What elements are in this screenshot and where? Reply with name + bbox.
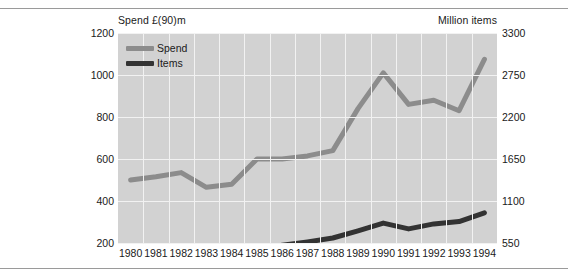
gridline-vertical xyxy=(446,33,447,243)
legend-label: Spend xyxy=(157,43,187,54)
series-line-items xyxy=(131,213,485,243)
x-axis-tick-label: 1993 xyxy=(447,247,470,259)
gridline-vertical xyxy=(320,33,321,243)
left-axis-tick-label: 1000 xyxy=(91,69,114,81)
gridline-horizontal xyxy=(118,201,497,202)
right-axis-tick-label: 3300 xyxy=(502,27,525,39)
right-axis-tick-label: 1100 xyxy=(502,195,525,207)
gridline-vertical xyxy=(472,33,473,243)
x-axis-ticks: 1980198119821983198419851986198719881989… xyxy=(118,247,497,265)
left-axis-tick-label: 200 xyxy=(96,237,114,249)
x-axis-tick-label: 1991 xyxy=(397,247,420,259)
left-axis-tick-label: 800 xyxy=(96,111,114,123)
line-chart-figure: Spend £(90)m Million items 2004006008001… xyxy=(0,0,568,277)
x-axis-tick-label: 1981 xyxy=(144,247,167,259)
right-axis-title: Million items xyxy=(438,14,497,26)
x-axis-tick-label: 1986 xyxy=(271,247,294,259)
right-axis-ticks: 55011001650220027503300 xyxy=(502,33,562,243)
gridline-horizontal xyxy=(118,159,497,160)
legend-item[interactable]: Items xyxy=(126,57,187,70)
gridline-vertical xyxy=(270,33,271,243)
gridline-vertical xyxy=(345,33,346,243)
left-axis-tick-label: 600 xyxy=(96,153,114,165)
x-axis-tick-label: 1982 xyxy=(169,247,192,259)
gridline-horizontal xyxy=(118,117,497,118)
gridline-vertical xyxy=(219,33,220,243)
legend-swatch-icon xyxy=(126,46,154,51)
series-line-spend xyxy=(131,59,485,187)
x-axis-tick-label: 1985 xyxy=(245,247,268,259)
right-axis-tick-label: 1650 xyxy=(502,153,525,165)
gridline-vertical xyxy=(396,33,397,243)
right-axis-tick-label: 550 xyxy=(502,237,520,249)
x-axis-tick-label: 1989 xyxy=(346,247,369,259)
x-axis-tick-label: 1987 xyxy=(296,247,319,259)
left-axis-tick-label: 1200 xyxy=(91,27,114,39)
left-axis-ticks: 20040060080010001200 xyxy=(70,33,114,243)
gridline-vertical xyxy=(371,33,372,243)
right-axis-tick-label: 2750 xyxy=(502,69,525,81)
gridline-horizontal xyxy=(118,243,497,244)
x-axis-tick-label: 1983 xyxy=(195,247,218,259)
gridline-horizontal xyxy=(118,33,497,34)
left-axis-tick-label: 400 xyxy=(96,195,114,207)
gridline-horizontal xyxy=(118,75,497,76)
legend-item[interactable]: Spend xyxy=(126,42,187,55)
x-axis-tick-label: 1980 xyxy=(119,247,142,259)
gridline-vertical xyxy=(295,33,296,243)
gridline-vertical xyxy=(244,33,245,243)
x-axis-tick-label: 1994 xyxy=(473,247,496,259)
chart-legend: SpendItems xyxy=(126,42,187,72)
legend-label: Items xyxy=(157,58,183,69)
legend-swatch-icon xyxy=(126,61,154,66)
gridline-vertical xyxy=(194,33,195,243)
x-axis-tick-label: 1990 xyxy=(372,247,395,259)
x-axis-tick-label: 1984 xyxy=(220,247,243,259)
x-axis-tick-label: 1992 xyxy=(422,247,445,259)
right-axis-tick-label: 2200 xyxy=(502,111,525,123)
x-axis-tick-label: 1988 xyxy=(321,247,344,259)
left-axis-title: Spend £(90)m xyxy=(118,14,186,26)
gridline-vertical xyxy=(421,33,422,243)
